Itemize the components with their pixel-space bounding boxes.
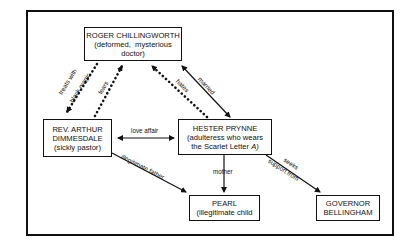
node-name: PEARL <box>212 199 237 208</box>
label-mother: mother <box>213 168 233 175</box>
node-desc-line2: doctor) <box>121 49 145 58</box>
edge-married <box>182 66 230 117</box>
node-desc-line2: the Scarlet Letter A) <box>191 142 259 151</box>
node-hester-prynne: HESTER PRYNNE (adulteress who wears the … <box>178 119 272 155</box>
node-name: HESTER PRYNNE <box>193 124 257 133</box>
node-name-line1: GOVERNOR <box>326 199 370 208</box>
node-desc-line1: (deformed, mysterious <box>94 40 172 49</box>
node-governor-bellingham: GOVERNOR BELLINGHAM <box>316 195 380 221</box>
edge-hates <box>152 66 207 117</box>
node-pearl: PEARL (illegitimate child <box>189 195 260 221</box>
node-roger-chillingworth: ROGER CHILLINGWORTH (deformed, mysteriou… <box>84 27 182 61</box>
node-desc: (sickly pastor) <box>54 143 101 152</box>
node-name-line2: BELLINGHAM <box>324 208 373 217</box>
node-name: ROGER CHILLINGWORTH <box>86 31 180 40</box>
node-desc-line1: (adulteress who wears <box>187 133 263 142</box>
label-love-affair: love affair <box>131 127 158 134</box>
node-rev-arthur-dimmesdale: REV. ARTHUR DIMMESDALE (sickly pastor) <box>43 119 112 157</box>
node-name-line1: REV. ARTHUR <box>52 125 102 134</box>
node-name-line2: DIMMESDALE <box>52 134 102 143</box>
node-desc: (illegitimate child <box>196 208 252 217</box>
